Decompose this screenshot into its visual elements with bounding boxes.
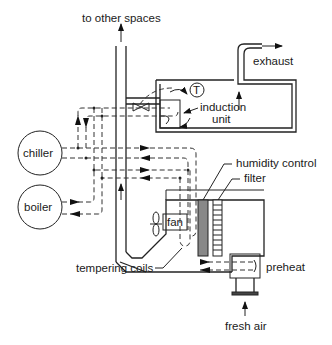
hvac-induction-diagram: to other spaces exhaust T induction unit [0,0,332,345]
filter-label: filter [244,172,266,184]
preheat-box [200,254,260,278]
boiler-label: boiler [24,201,52,213]
humidity-control-label: humidity control [236,157,317,169]
induction-unit-label: induction [200,101,246,113]
fresh-air-intake [232,278,258,295]
filter [213,200,222,256]
preheat-label: preheat [266,261,306,273]
exhaust-label: exhaust [253,55,294,67]
supply-riser-duct [116,46,160,272]
chiller-label: chiller [23,147,53,159]
induction-unit [160,100,180,128]
induction-unit-label-2: unit [212,113,231,125]
fan-icon [150,212,162,236]
air-handling-unit [120,190,264,272]
fan-label: fan [167,216,183,228]
thermostat-icon: T [190,83,204,97]
tempering-coils-label: tempering coils [76,262,154,274]
svg-text:T: T [193,84,200,96]
chiller: chiller [18,131,62,175]
fresh-air-label: fresh air [225,320,267,332]
boiler: boiler [18,185,62,229]
to-other-spaces-label: to other spaces [82,12,161,24]
humidity-control [198,200,208,256]
pipe-junction-dots [77,107,190,180]
